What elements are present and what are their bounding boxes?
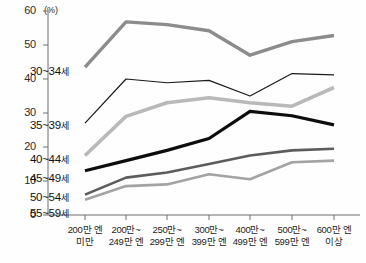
series-label-range: 55~59 [30, 207, 61, 219]
chart-series-lines [85, 22, 334, 200]
y-axis-tick-label: 20 [10, 140, 36, 152]
chart-axes [43, 11, 360, 220]
series-label-range: 35~39 [30, 119, 61, 131]
x-axis-tick-label-line: 이상 [304, 236, 364, 248]
series-label-unit: 세 [61, 67, 69, 77]
series-label: 50~54세 [30, 191, 69, 204]
series-label: 35~39세 [30, 119, 69, 132]
line-chart: (%) 0102030405060 200만 엔미만200만~249만 엔250… [0, 0, 366, 263]
series-label-range: 30~34 [30, 65, 61, 77]
series-label-range: 40~44 [30, 153, 61, 165]
series-label: 40~44세 [30, 153, 69, 166]
y-axis-tick-label: 30 [10, 106, 36, 118]
y-axis-tick-label: 50 [10, 38, 36, 50]
series-line [85, 88, 334, 156]
series-label: 45~49세 [30, 172, 69, 185]
series-label-unit: 세 [61, 174, 69, 184]
x-axis-tick-label: 600만 엔이상 [304, 224, 364, 248]
series-label-unit: 세 [61, 155, 69, 165]
series-label-range: 50~54 [30, 191, 61, 203]
series-line [85, 22, 334, 67]
series-label: 55~59세 [30, 207, 69, 220]
series-label-unit: 세 [61, 209, 69, 219]
series-label: 30~34세 [30, 65, 69, 78]
series-label-range: 45~49 [30, 172, 61, 184]
series-label-unit: 세 [61, 121, 69, 131]
x-axis-tick-label-line: 600만 엔 [304, 224, 364, 236]
series-label-unit: 세 [61, 193, 69, 203]
y-axis-tick-label: 60 [10, 4, 36, 16]
